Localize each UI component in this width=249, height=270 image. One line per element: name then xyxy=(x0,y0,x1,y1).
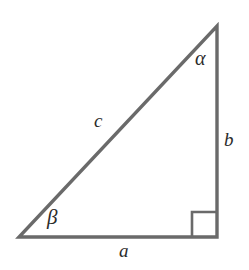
angle-label-beta: β xyxy=(47,207,57,228)
angle-label-alpha: α xyxy=(195,48,206,68)
side-label-b: b xyxy=(224,130,234,149)
side-label-c: c xyxy=(94,111,102,130)
right-angle-marker xyxy=(192,212,217,237)
triangle-shape-svg xyxy=(0,0,249,270)
side-label-a: a xyxy=(119,241,129,260)
right-triangle-figure: α β c b a xyxy=(0,0,249,270)
